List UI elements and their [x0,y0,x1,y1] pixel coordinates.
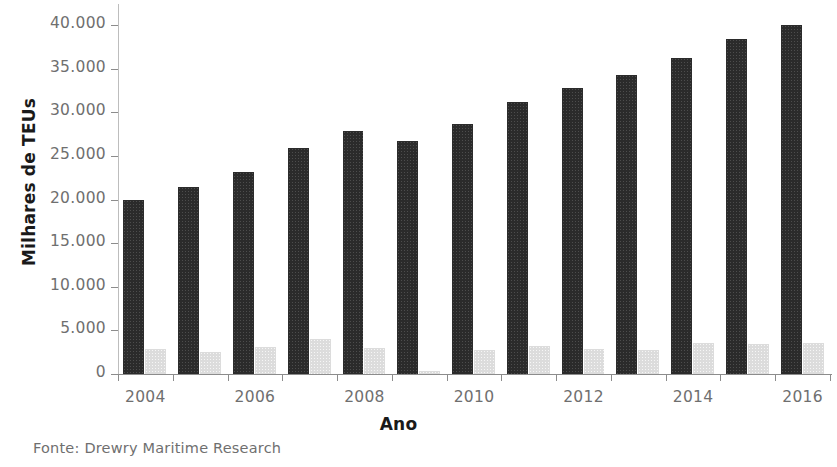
bar-serie-escura-2011 [507,102,528,374]
x-tick-label: 2004 [110,388,180,406]
y-tick-mark [111,25,118,26]
x-axis-title: Ano [0,414,837,434]
source-note: Fonte: Drewry Maritime Research [33,440,281,456]
bar-serie-escura-2005 [178,187,199,374]
bar-serie-clara-2004 [145,349,166,374]
y-tick-label: 15.000 [12,232,106,250]
x-tick-mark [447,374,448,381]
bar-serie-escura-2016 [781,25,802,374]
bar-serie-escura-2010 [452,124,473,374]
bar-serie-clara-2010 [474,350,495,374]
bar-serie-escura-2006 [233,172,254,374]
y-tick-mark [111,69,118,70]
x-tick-label: 2012 [549,388,619,406]
y-tick-mark [111,112,118,113]
x-tick-label: 2016 [768,388,837,406]
y-tick-label: 20.000 [12,189,106,207]
x-tick-mark [228,374,229,381]
x-tick-mark [611,374,612,381]
x-tick-label: 2010 [439,388,509,406]
bar-serie-clara-2006 [255,347,276,374]
x-tick-label: 2008 [329,388,399,406]
y-tick-label: 35.000 [12,58,106,76]
bar-serie-escura-2009 [397,141,418,374]
x-axis-title-text: Ano [380,414,418,434]
y-tick-mark [111,330,118,331]
bars-layer [118,4,830,374]
y-tick-label: 10.000 [12,276,106,294]
y-tick-label: 0 [12,363,106,381]
y-tick-label: 40.000 [12,14,106,32]
x-tick-mark [282,374,283,381]
x-tick-mark [501,374,502,381]
chart-container: Milhares de TEUs 40.00035.00030.00025.00… [0,0,837,467]
y-tick-label: 5.000 [12,319,106,337]
x-tick-mark [337,374,338,381]
bar-serie-clara-2013 [638,350,659,374]
bar-serie-escura-2014 [671,58,692,374]
bar-serie-escura-2013 [616,75,637,374]
x-tick-mark [830,374,831,381]
x-axis-line [112,374,832,375]
y-tick-mark [111,156,118,157]
x-tick-mark [720,374,721,381]
bar-serie-clara-2015 [748,344,769,374]
x-tick-mark [556,374,557,381]
x-tick-label: 2006 [220,388,290,406]
x-tick-mark [392,374,393,381]
bar-serie-escura-2015 [726,39,747,374]
bar-serie-clara-2016 [803,343,824,374]
y-tick-mark [111,200,118,201]
bar-serie-escura-2012 [562,88,583,374]
y-tick-mark [111,243,118,244]
bar-serie-clara-2008 [364,348,385,374]
x-tick-label: 2014 [658,388,728,406]
x-tick-mark [775,374,776,381]
bar-serie-clara-2011 [529,346,550,374]
y-tick-label: 30.000 [12,101,106,119]
bar-serie-escura-2004 [123,200,144,375]
bar-serie-clara-2012 [584,349,605,374]
x-tick-mark [118,374,119,381]
y-tick-mark [111,374,118,375]
bar-serie-escura-2008 [343,131,364,374]
x-tick-mark [173,374,174,381]
bar-serie-clara-2009 [419,371,440,374]
x-tick-mark [666,374,667,381]
y-tick-label: 25.000 [12,145,106,163]
bar-serie-clara-2005 [200,352,221,374]
bar-serie-escura-2007 [288,148,309,374]
y-tick-mark [111,287,118,288]
bar-serie-clara-2007 [310,339,331,374]
bar-serie-clara-2014 [693,343,714,374]
